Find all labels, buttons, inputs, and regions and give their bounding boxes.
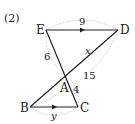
parallel-arrow-icon — [52, 105, 57, 110]
measure-AD: x — [85, 45, 91, 56]
measure-EA: 6 — [44, 51, 50, 62]
measure-BC: y — [50, 110, 57, 121]
geometry-diagram: (2) E D A B C 9 6 x 15 4 y — [0, 0, 135, 124]
measure-AD-total: 15 — [83, 70, 96, 81]
point-label-B: B — [20, 101, 29, 115]
point-label-E: E — [36, 23, 45, 37]
measure-AC: 4 — [73, 84, 79, 95]
measure-ED: 9 — [79, 16, 85, 27]
segment-BD — [30, 30, 118, 107]
point-label-D: D — [120, 23, 130, 37]
problem-label: (2) — [4, 12, 20, 25]
point-label-C: C — [80, 101, 89, 115]
parallel-arrow-icon — [80, 28, 85, 33]
point-label-A: A — [59, 81, 69, 95]
